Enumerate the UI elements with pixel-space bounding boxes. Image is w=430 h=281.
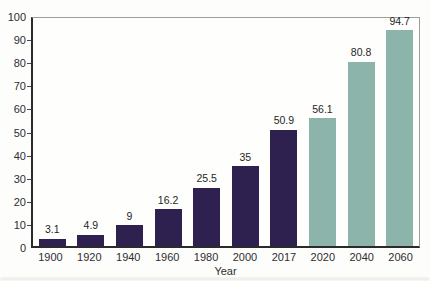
bar-column-1960: 16.2: [149, 18, 188, 246]
y-tick-label-50: 50: [0, 128, 26, 139]
bar-column-2060: 94.7: [380, 18, 419, 246]
y-tick-label-40: 40: [0, 151, 26, 162]
y-tick-label-10: 10: [0, 220, 26, 231]
bar-value-label-1900: 3.1: [45, 224, 60, 235]
y-tick-label-30: 30: [0, 174, 26, 185]
x-tick-label-2017: 2017: [264, 252, 303, 263]
bar-column-1980: 25.5: [187, 18, 226, 246]
x-tick-label-1960: 1960: [148, 252, 187, 263]
bar-2020: [309, 118, 336, 246]
y-tick-label-70: 70: [0, 81, 26, 92]
x-axis-title: Year: [31, 266, 420, 277]
bar-1940: [116, 225, 143, 246]
bar-value-label-1920: 4.9: [84, 220, 99, 231]
y-tick-label-0: 0: [0, 243, 26, 254]
bar-2040: [348, 62, 375, 246]
bar-column-2040: 80.8: [342, 18, 381, 246]
x-axis-tick-labels: 1900192019401960198020002017202020402060: [31, 252, 420, 263]
y-tick-label-20: 20: [0, 197, 26, 208]
bar-1960: [155, 209, 182, 246]
x-tick-label-1980: 1980: [187, 252, 226, 263]
x-tick-label-1940: 1940: [109, 252, 148, 263]
bar-column-1920: 4.9: [72, 18, 111, 246]
bar-value-label-2020: 56.1: [312, 104, 332, 115]
x-tick-label-2040: 2040: [342, 252, 381, 263]
bar-value-label-2017: 50.9: [274, 115, 294, 126]
bar-2000: [232, 166, 259, 246]
bar-2060: [386, 30, 413, 246]
population-bar-chart: 0102030405060708090100 3.14.9916.225.535…: [0, 0, 430, 281]
x-tick-label-1920: 1920: [70, 252, 109, 263]
bars: 3.14.9916.225.53550.956.180.894.7: [33, 18, 419, 246]
x-tick-label-2060: 2060: [381, 252, 420, 263]
bar-value-label-2000: 35: [239, 152, 251, 163]
x-tick-label-1900: 1900: [31, 252, 70, 263]
bar-value-label-1940: 9: [127, 211, 133, 222]
bar-column-2017: 50.9: [265, 18, 304, 246]
bar-column-1940: 9: [110, 18, 149, 246]
bar-1920: [77, 235, 104, 246]
bar-1900: [39, 239, 66, 246]
x-tick-label-2020: 2020: [303, 252, 342, 263]
bar-value-label-2060: 94.7: [389, 16, 409, 27]
y-tick-label-100: 100: [0, 12, 26, 23]
y-tick-label-80: 80: [0, 58, 26, 69]
y-tick-label-60: 60: [0, 104, 26, 115]
plot-area: 3.14.9916.225.53550.956.180.894.7: [31, 17, 420, 248]
bar-value-label-1960: 16.2: [158, 195, 178, 206]
bar-2017: [270, 130, 297, 246]
bar-column-2020: 56.1: [303, 18, 342, 246]
bar-column-2000: 35: [226, 18, 265, 246]
y-tick-label-90: 90: [0, 35, 26, 46]
bar-value-label-2040: 80.8: [351, 47, 371, 58]
x-tick-label-2000: 2000: [226, 252, 265, 263]
bar-value-label-1980: 25.5: [196, 173, 216, 184]
bar-1980: [193, 188, 220, 246]
scan-artifact-line: [0, 278, 430, 280]
bar-column-1900: 3.1: [33, 18, 72, 246]
